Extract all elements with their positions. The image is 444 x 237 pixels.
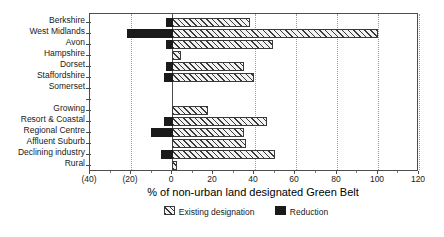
x-tick-minor — [110, 171, 111, 173]
solid-black-swatch-icon — [275, 206, 286, 215]
x-axis-tick-label: (40) — [69, 174, 109, 184]
bar-row — [90, 138, 417, 149]
bar-existing — [172, 40, 273, 49]
bar-reduction — [164, 73, 173, 82]
y-tick — [86, 33, 91, 34]
x-axis-tick-label: 40 — [233, 174, 273, 184]
y-tick — [86, 44, 91, 45]
x-axis-title-text: % of non-urban land designated Green Bel… — [147, 186, 359, 198]
bar-existing — [172, 161, 177, 170]
y-tick — [86, 165, 91, 166]
y-axis-label-staffordshire: Staffordshire — [37, 71, 85, 80]
x-axis-tick-label: 0 — [151, 174, 191, 184]
bar-reduction — [151, 128, 173, 137]
legend-label: Reduction — [290, 207, 328, 217]
bar-existing — [172, 62, 244, 71]
x-tick-minor — [274, 171, 275, 173]
y-tick — [86, 55, 91, 56]
x-tick-minor — [151, 171, 152, 173]
chart-legend: Existing designation Reduction — [0, 206, 444, 217]
x-tick-minor — [192, 171, 193, 173]
y-tick — [86, 110, 91, 111]
y-axis-label-affluent-suburb: Affluent Suburb — [27, 137, 85, 146]
bar-existing — [172, 117, 267, 126]
bar-reduction — [166, 62, 173, 71]
bar-row — [90, 39, 417, 50]
green-belt-bar-chart: Berkshire West Midlands Avon Hampshire D… — [0, 0, 444, 237]
x-axis-tick-label: 120 — [398, 174, 438, 184]
bar-row — [90, 50, 417, 61]
bar-reduction — [161, 150, 173, 159]
bar-row — [90, 61, 417, 72]
y-tick — [86, 88, 91, 89]
y-axis-label-declining-industry: Declining industry — [18, 148, 85, 157]
y-axis-label-dorset: Dorset — [60, 60, 85, 69]
x-axis-tick-label: 80 — [316, 174, 356, 184]
bar-reduction — [164, 117, 173, 126]
y-axis-label-avon: Avon — [66, 38, 85, 47]
bar-existing — [172, 51, 181, 60]
bar-rows — [90, 14, 417, 170]
bar-existing — [172, 73, 254, 82]
bar-row — [90, 160, 417, 171]
x-axis-title: % of non-urban land designated Green Bel… — [0, 186, 444, 198]
y-axis-label-hampshire: Hampshire — [44, 49, 85, 58]
plot-area — [89, 13, 418, 171]
x-tick-minor — [315, 171, 316, 173]
y-axis-label-somerset: Somerset — [49, 82, 85, 91]
bar-existing — [172, 139, 246, 148]
y-tick — [86, 66, 91, 67]
y-axis-label-regional-centre: Regional Centre — [24, 126, 85, 135]
y-axis-label-west-midlands: West Midlands — [29, 27, 85, 36]
x-axis-tick-label: 100 — [357, 174, 397, 184]
bar-reduction — [166, 18, 173, 27]
x-tick-minor — [397, 171, 398, 173]
hatched-swatch-icon — [164, 206, 175, 215]
bar-existing — [172, 29, 378, 38]
bar-existing — [172, 106, 208, 115]
bar-existing — [172, 128, 244, 137]
y-tick — [86, 143, 91, 144]
bar-reduction — [166, 40, 173, 49]
y-axis-label-berkshire: Berkshire — [49, 16, 85, 25]
bar-row — [90, 28, 417, 39]
y-tick — [86, 22, 91, 23]
x-tick-minor — [356, 171, 357, 173]
bar-row — [90, 105, 417, 116]
x-axis-tick-label: 20 — [192, 174, 232, 184]
y-axis-label-resort-coastal: Resort & Coastal — [21, 115, 85, 124]
bar-row — [90, 72, 417, 83]
y-tick — [86, 121, 91, 122]
x-axis-tick-label: (20) — [110, 174, 150, 184]
bar-existing — [172, 150, 275, 159]
x-tick-minor — [233, 171, 234, 173]
bar-row — [90, 149, 417, 160]
bar-row — [90, 116, 417, 127]
y-tick — [86, 99, 91, 100]
legend-inner: Existing designation Reduction — [155, 206, 337, 217]
bar-row — [90, 127, 417, 138]
legend-label: Existing designation — [179, 207, 255, 217]
legend-item-existing-designation: Existing designation — [164, 206, 255, 217]
bar-existing — [172, 18, 250, 27]
y-tick — [86, 77, 91, 78]
y-tick — [86, 132, 91, 133]
bar-reduction — [127, 29, 173, 38]
bar-row — [90, 17, 417, 28]
y-axis-label-growing: Growing — [53, 104, 85, 113]
gridline-100 — [419, 14, 421, 170]
y-axis-label-rural: Rural — [65, 159, 85, 168]
legend-item-reduction: Reduction — [275, 206, 328, 217]
y-tick — [86, 154, 91, 155]
x-axis-tick-label: 60 — [274, 174, 314, 184]
